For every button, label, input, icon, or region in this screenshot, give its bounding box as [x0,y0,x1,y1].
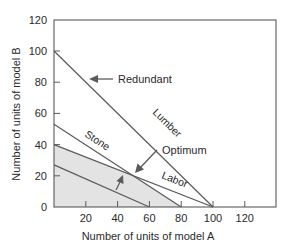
x-tick-label: 80 [175,212,187,224]
y-tick-label: 80 [35,76,47,88]
lumber-label: Lumber [151,106,185,140]
x-tick-label: 40 [111,212,123,224]
y-axis-title: Number of units of model B [10,47,22,180]
x-tick-label: 120 [236,212,254,224]
optimum-label: Optimum [162,144,207,156]
stone-label: Stone [83,128,113,153]
x-tick-label: 60 [143,212,155,224]
x-tick-label: 20 [80,212,92,224]
x-axis-title: Number of units of model A [82,230,215,242]
chart: 0 20 40 60 80 100 120 20 40 60 80 100 12… [0,0,290,251]
x-tick-labels: 20 40 60 80 100 120 [80,212,254,224]
redundant-label: Redundant [118,73,172,85]
labor-label: Labor [160,169,190,190]
y-tick-label: 60 [35,107,47,119]
y-tick-labels: 0 20 40 60 80 100 120 [29,14,47,213]
y-tick-label: 40 [35,139,47,151]
y-tick-label: 120 [29,14,47,26]
optimum-arrow [135,150,157,173]
redundant-arrow [89,75,113,83]
y-tick-label: 0 [41,201,47,213]
y-tick-label: 100 [29,45,47,57]
y-tick-label: 20 [35,170,47,182]
x-tick-label: 100 [204,212,222,224]
